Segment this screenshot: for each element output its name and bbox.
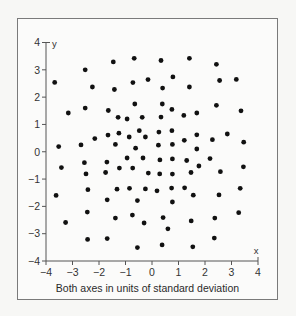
data-point <box>130 213 135 218</box>
data-point <box>132 102 137 107</box>
data-point <box>105 236 110 241</box>
data-point <box>208 156 213 161</box>
data-point <box>210 137 215 142</box>
data-point <box>135 198 140 203</box>
y-tick-label: 1 <box>34 118 40 130</box>
data-point <box>187 56 192 61</box>
data-point <box>127 135 132 140</box>
data-point <box>156 143 161 148</box>
data-point <box>132 56 137 61</box>
data-point <box>105 160 110 165</box>
data-point <box>83 106 88 111</box>
data-point <box>117 131 122 136</box>
data-point <box>59 165 64 170</box>
data-point <box>133 146 138 151</box>
y-tick-label: 0 <box>34 146 40 158</box>
data-point <box>113 216 118 221</box>
data-point <box>112 87 117 92</box>
data-point <box>170 200 175 205</box>
data-point <box>171 75 176 80</box>
data-point <box>241 164 246 169</box>
data-point <box>79 143 84 148</box>
data-point <box>155 188 160 193</box>
data-point <box>113 142 118 147</box>
y-axis-label: y <box>52 38 57 49</box>
data-point <box>111 60 116 65</box>
data-point <box>115 187 120 192</box>
y-tick-label: −2 <box>28 200 40 212</box>
data-point <box>181 113 186 118</box>
data-point <box>214 103 219 108</box>
data-point <box>170 157 175 162</box>
data-point <box>141 156 146 161</box>
data-point <box>225 132 230 137</box>
data-point <box>217 78 222 83</box>
data-point <box>143 135 148 140</box>
data-point <box>116 115 121 120</box>
data-point <box>106 133 111 138</box>
data-point <box>182 185 187 190</box>
data-point <box>194 132 199 137</box>
x-tick-label: −1 <box>120 266 132 278</box>
data-point <box>170 107 175 112</box>
data-point <box>194 111 199 116</box>
x-tick-label: 0 <box>149 266 155 278</box>
data-point <box>187 85 192 90</box>
data-point <box>189 170 194 175</box>
data-point <box>160 86 165 91</box>
x-tick-label: −4 <box>40 266 52 278</box>
data-point <box>117 166 122 171</box>
data-point <box>197 164 202 169</box>
data-point <box>170 172 175 177</box>
data-point <box>52 80 57 85</box>
data-point <box>103 170 108 175</box>
y-tick-label: 4 <box>34 36 40 48</box>
data-point <box>169 186 174 191</box>
x-tick-label: 2 <box>202 266 208 278</box>
data-point <box>146 171 151 176</box>
data-point <box>234 77 239 82</box>
data-point <box>212 236 217 241</box>
data-point <box>160 243 165 248</box>
axes-caption: Both axes in units of standard deviation <box>17 282 278 294</box>
data-point <box>131 80 136 85</box>
y-tick-label: −4 <box>28 255 40 267</box>
data-point <box>63 220 68 225</box>
data-point <box>190 244 195 249</box>
data-point <box>106 108 111 113</box>
data-point <box>158 158 163 163</box>
data-points <box>52 56 246 250</box>
x-tick-label: 3 <box>229 266 235 278</box>
data-point <box>92 136 97 141</box>
data-point <box>238 186 243 191</box>
data-point <box>66 111 71 116</box>
data-point <box>194 147 199 152</box>
x-tick-label: −2 <box>93 266 105 278</box>
data-point <box>146 77 151 82</box>
data-point <box>56 144 61 149</box>
data-point <box>157 172 162 177</box>
data-point <box>191 193 196 198</box>
data-point <box>218 169 223 174</box>
data-point <box>83 67 88 72</box>
data-point <box>217 193 222 198</box>
data-point <box>170 128 175 133</box>
y-tick-label: 2 <box>34 91 40 103</box>
data-point <box>140 115 145 120</box>
data-point <box>182 138 187 143</box>
data-point <box>84 172 89 177</box>
data-point <box>161 215 166 220</box>
data-point <box>125 156 130 161</box>
data-point <box>212 216 217 221</box>
data-point <box>85 210 90 215</box>
data-point <box>142 221 147 226</box>
x-tick-label: −3 <box>67 266 79 278</box>
data-point <box>130 166 135 171</box>
data-point <box>85 237 90 242</box>
data-point <box>239 108 244 113</box>
data-point <box>160 102 165 107</box>
data-point <box>157 130 162 135</box>
data-point <box>137 128 142 133</box>
data-point <box>189 219 194 224</box>
data-point <box>127 186 132 191</box>
